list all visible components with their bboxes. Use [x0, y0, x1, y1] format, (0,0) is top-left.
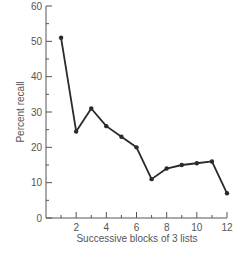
line-chart: 0102030405060 24681012 Percent recall Su…: [0, 0, 244, 258]
y-tick-label: 50: [31, 36, 43, 47]
x-tick-label: 12: [221, 222, 233, 233]
x-tick-label: 6: [134, 222, 140, 233]
data-point: [225, 191, 229, 195]
data-point: [89, 106, 93, 110]
x-tick-label: 2: [73, 222, 79, 233]
data-point: [59, 36, 63, 40]
data-points: [59, 36, 229, 196]
data-point: [74, 129, 78, 133]
data-point: [134, 145, 138, 149]
data-line: [61, 38, 227, 193]
data-point: [195, 161, 199, 165]
y-axis-ticks: 0102030405060: [31, 1, 52, 224]
data-point: [149, 177, 153, 181]
y-tick-label: 60: [31, 1, 43, 12]
x-tick-label: 4: [104, 222, 110, 233]
data-point: [164, 166, 168, 170]
x-axis-label: Successive blocks of 3 lists: [76, 233, 197, 244]
data-point: [210, 159, 214, 163]
data-point: [119, 135, 123, 139]
y-tick-label: 10: [31, 177, 43, 188]
data-point: [180, 163, 184, 167]
y-tick-label: 30: [31, 107, 43, 118]
y-tick-label: 0: [36, 213, 42, 224]
x-axis-ticks: 24681012: [61, 212, 233, 233]
y-axis-label: Percent recall: [15, 81, 26, 142]
y-tick-label: 20: [31, 142, 43, 153]
x-tick-label: 10: [191, 222, 203, 233]
x-tick-label: 8: [164, 222, 170, 233]
y-tick-label: 40: [31, 71, 43, 82]
data-point: [104, 124, 108, 128]
